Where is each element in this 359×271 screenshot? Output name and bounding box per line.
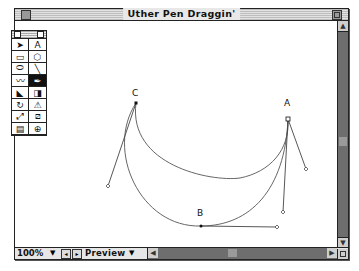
scroll-left-arrow-icon[interactable]: ◀ xyxy=(148,248,158,258)
knife-icon: ◣ xyxy=(17,88,24,98)
point-label-c: C xyxy=(132,88,138,98)
close-box[interactable] xyxy=(21,10,31,20)
window-title: Uther Pen Draggin' xyxy=(123,8,241,20)
pen-icon: ✒ xyxy=(34,76,42,86)
toolbox-title-bar[interactable] xyxy=(12,31,46,39)
view-mode-dropdown-icon[interactable]: ▼ xyxy=(129,248,134,259)
magnify-icon: ⊕ xyxy=(34,124,42,134)
corner-tool[interactable]: ◨ xyxy=(29,87,46,99)
resize-grow-box[interactable] xyxy=(337,249,348,259)
toolbox-close-box[interactable] xyxy=(14,31,21,38)
knife-tool[interactable]: ◣ xyxy=(12,87,29,99)
arrow-tool[interactable]: ➤ xyxy=(12,39,29,51)
line-tool[interactable]: ╲ xyxy=(29,63,46,75)
rotate-tool[interactable]: ↻ xyxy=(12,99,29,111)
zoom-dropdown-icon[interactable]: ▼ xyxy=(50,248,55,259)
freehand-icon: 〰 xyxy=(16,74,25,87)
line-icon: ╲ xyxy=(35,64,40,74)
polygon-icon: ⬡ xyxy=(34,52,42,62)
reflect-tool[interactable]: ⚠ xyxy=(29,99,46,111)
scroll-up-arrow-icon[interactable]: ▲ xyxy=(338,21,348,32)
title-bar[interactable]: Uther Pen Draggin' xyxy=(15,9,348,21)
scale-tool[interactable]: ⤢ xyxy=(12,111,29,123)
document-window: Uther Pen Draggin' ▲ ▼ 100% ▼ ◂ ▸ Previe… xyxy=(14,8,349,260)
trace-icon: ▤ xyxy=(16,124,25,134)
scale-icon: ⤢ xyxy=(17,111,24,122)
drawing-canvas[interactable] xyxy=(15,21,337,248)
text-icon: A xyxy=(34,40,40,50)
point-label-a: A xyxy=(284,98,290,108)
freehand-tool[interactable]: 〰 xyxy=(12,75,29,87)
text-tool[interactable]: A xyxy=(29,39,46,51)
next-page-button[interactable]: ▸ xyxy=(72,249,82,259)
rotate-icon: ↻ xyxy=(16,100,24,110)
status-bar: 100% ▼ ◂ ▸ Preview ▼ ◀ ▶ xyxy=(15,247,348,259)
pen-tool[interactable]: ✒ xyxy=(29,75,46,87)
trace-tool[interactable]: ▤ xyxy=(12,123,29,135)
scroll-right-arrow-icon[interactable]: ▶ xyxy=(327,248,337,258)
magnify-tool[interactable]: ⊕ xyxy=(29,123,46,135)
rectangle-icon: ▭ xyxy=(16,52,25,62)
horizontal-scrollbar[interactable]: ◀ ▶ xyxy=(147,248,337,259)
toolbox-palette: ➤A▭⬡⬭╲〰✒◣◨↻⚠⤢⧄▤⊕ xyxy=(11,30,47,136)
skew-tool[interactable]: ⧄ xyxy=(29,111,46,123)
polygon-tool[interactable]: ⬡ xyxy=(29,51,46,63)
skew-icon: ⧄ xyxy=(35,111,41,122)
ellipse-icon: ⬭ xyxy=(16,63,24,74)
previous-page-button[interactable]: ◂ xyxy=(61,249,71,259)
zoom-box[interactable] xyxy=(332,10,342,20)
point-label-b: B xyxy=(197,208,203,218)
reflect-icon: ⚠ xyxy=(33,100,41,110)
vertical-scrollbar[interactable]: ▲ ▼ xyxy=(337,21,348,248)
arrow-icon: ➤ xyxy=(16,40,24,50)
toolbox-zoom-box[interactable] xyxy=(37,31,44,38)
zoom-level-menu[interactable]: 100% xyxy=(17,248,43,259)
corner-icon: ◨ xyxy=(33,88,42,98)
rectangle-tool[interactable]: ▭ xyxy=(12,51,29,63)
view-mode-menu[interactable]: Preview xyxy=(85,248,125,259)
vertical-scroll-thumb[interactable] xyxy=(339,137,347,146)
horizontal-scroll-thumb[interactable] xyxy=(228,249,237,257)
tool-grid: ➤A▭⬡⬭╲〰✒◣◨↻⚠⤢⧄▤⊕ xyxy=(12,39,46,135)
